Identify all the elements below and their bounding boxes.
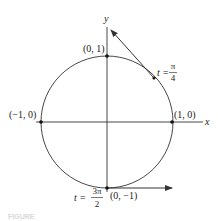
tangent-vector-pi-over-4: [111, 30, 154, 78]
fraction-denominator: 2: [95, 199, 100, 209]
point-pi-over-4: [152, 76, 155, 79]
unit-circle-diagram: y x (0, 1) (−1, 0) (1, 0) (0, −1) t = π …: [0, 0, 218, 221]
fraction-denominator: 4: [171, 73, 176, 83]
annotation-t-pi-over-4: t = π 4: [157, 61, 177, 83]
point-top: [105, 54, 109, 58]
y-axis-label: y: [103, 13, 109, 24]
label-point-bottom: (0, −1): [110, 190, 137, 202]
point-bottom: [105, 186, 109, 190]
point-left: [39, 120, 43, 124]
annotation-prefix: t =: [157, 67, 169, 78]
annotation-t-3pi-over-2: t = 3π 2: [74, 186, 103, 209]
annotation-prefix: t =: [74, 192, 86, 203]
fraction-numerator: 3π: [92, 186, 102, 196]
label-point-left: (−1, 0): [9, 109, 36, 121]
figure-caption: FIGURE: [8, 213, 35, 220]
point-right: [170, 120, 174, 124]
fraction-numerator: π: [171, 61, 176, 71]
x-axis-label: x: [204, 116, 210, 127]
label-point-right: (1, 0): [174, 109, 196, 121]
label-point-top: (0, 1): [83, 43, 105, 55]
